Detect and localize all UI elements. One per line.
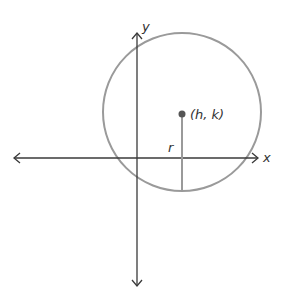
- y-axis-label: y: [141, 19, 150, 34]
- circle-diagram: y x (h, k) r: [0, 0, 282, 299]
- x-axis-label: x: [262, 150, 271, 165]
- center-label: (h, k): [190, 107, 224, 122]
- y-axis: [132, 33, 142, 286]
- center-point: [179, 111, 186, 118]
- x-axis: [14, 153, 258, 163]
- radius-label: r: [168, 140, 175, 155]
